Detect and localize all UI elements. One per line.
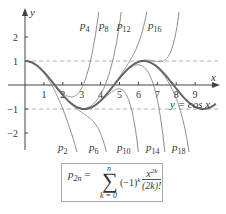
sum-lower: k = 0 [100,191,117,200]
x-tick-label: 6 [136,89,141,100]
fraction: x2k (2k)! [142,167,161,191]
x-tick-label: 5 [117,89,122,100]
label-p4: p4 [79,19,90,34]
formula-box: p2n = n ∑ k = 0 (−1)k x2k (2k)! [61,163,163,202]
label-p16: p16 [147,19,162,34]
label-p10: p10 [116,141,131,156]
cos-label: y = cos x [169,98,210,110]
taylor-formula: p2n = [68,168,90,183]
label-p2: p2 [57,141,68,156]
y-tick-label: 2 [13,32,18,43]
y-tick-label: 1 [13,56,18,67]
label-p14: p14 [145,141,160,156]
y-tick-label: −2 [7,128,18,139]
x-axis-label: x [210,71,216,83]
sign-term: (−1)k [120,176,140,188]
label-p18: p18 [171,141,186,156]
y-axis-arrow-icon [22,8,28,16]
label-p6: p6 [88,141,99,156]
x-tick-label: 1 [41,89,46,100]
label-p8: p8 [98,19,109,34]
y-tick-label: −1 [7,104,18,115]
y-axis-label: y [29,6,35,18]
